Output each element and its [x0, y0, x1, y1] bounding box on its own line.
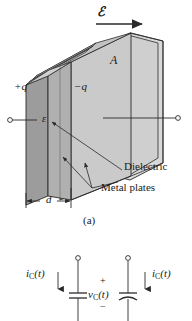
front-metal-plate	[26, 62, 71, 205]
polarity-minus-label: −	[100, 302, 106, 312]
voltage-label: vC(t)	[88, 289, 109, 302]
field-label: ℰ	[97, 5, 105, 18]
current-left-argument: (t)	[34, 267, 44, 279]
permittivity-label: ε	[42, 114, 46, 124]
negative-charge-label: −q	[74, 81, 87, 92]
dielectric-label: Dielectric	[124, 161, 167, 172]
positive-charge-label: +q	[14, 81, 27, 92]
area-label: A	[110, 54, 117, 66]
separation-label: d	[46, 194, 52, 205]
current-right-label: iC(t)	[152, 268, 171, 281]
metal-plates-label: Metal plates	[101, 182, 155, 193]
current-left-label: iC(t)	[26, 268, 45, 281]
polarity-plus-label: +	[100, 276, 106, 286]
voltage-argument: (t)	[98, 288, 108, 300]
subfigure-caption-a: (a)	[83, 215, 95, 226]
capacitor-figure: ℰ A +q −q ε d Dielectric Metal plates (a…	[0, 0, 192, 321]
current-right-argument: (t)	[160, 267, 170, 279]
